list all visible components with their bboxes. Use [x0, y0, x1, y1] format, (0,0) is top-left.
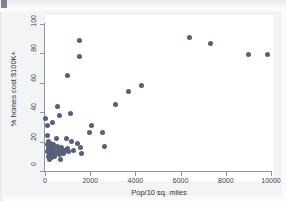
scatter-point — [113, 102, 118, 107]
x-tick — [181, 172, 182, 176]
scatter-point — [68, 111, 73, 116]
scatter-point — [71, 148, 76, 153]
scatter-point — [78, 145, 83, 150]
scan-top-band — [0, 0, 286, 9]
scatter-point — [79, 151, 84, 156]
x-tick — [45, 172, 46, 176]
y-tick-label: 80 — [30, 44, 37, 52]
x-axis-title: Pop/10 sq. miles — [45, 188, 273, 197]
page-background: 020406080100 0200040006000800010000 % ho… — [0, 0, 286, 201]
y-tick-label: 100 — [30, 15, 37, 27]
y-tick — [40, 83, 44, 84]
y-tick — [40, 53, 44, 54]
x-axis-line — [44, 171, 272, 172]
scatter-plot-figure: 020406080100 0200040006000800010000 % ho… — [0, 9, 286, 201]
scatter-point — [77, 38, 82, 43]
x-tick-label: 4000 — [115, 177, 155, 184]
y-tick — [40, 112, 44, 113]
x-tick-label: 2000 — [70, 177, 110, 184]
scatter-point — [45, 123, 50, 128]
y-axis-title: % homes cost $100K+ — [9, 51, 21, 126]
x-tick — [90, 172, 91, 176]
y-tick — [40, 171, 44, 172]
x-tick-label: 0 — [25, 177, 65, 184]
x-tick — [226, 172, 227, 176]
y-tick-label: 20 — [30, 133, 37, 141]
y-tick-label: 0 — [30, 162, 37, 166]
scatter-point — [55, 104, 60, 109]
x-tick — [135, 172, 136, 176]
y-tick-label: 60 — [30, 74, 37, 82]
scatter-point — [102, 144, 107, 149]
scatter-point — [187, 35, 192, 40]
scatter-point — [89, 123, 94, 128]
x-tick-label: 10000 — [251, 177, 286, 184]
x-tick-label: 6000 — [161, 177, 201, 184]
scatter-point — [126, 89, 131, 94]
y-tick-label: 40 — [30, 103, 37, 111]
x-tick — [271, 172, 272, 176]
y-tick — [40, 142, 44, 143]
scan-speck-artifact — [1, 0, 7, 8]
x-tick-label: 8000 — [206, 177, 246, 184]
scatter-point — [65, 73, 70, 78]
y-tick — [40, 24, 44, 25]
scatter-point — [64, 136, 69, 141]
scatter-point — [54, 136, 59, 141]
